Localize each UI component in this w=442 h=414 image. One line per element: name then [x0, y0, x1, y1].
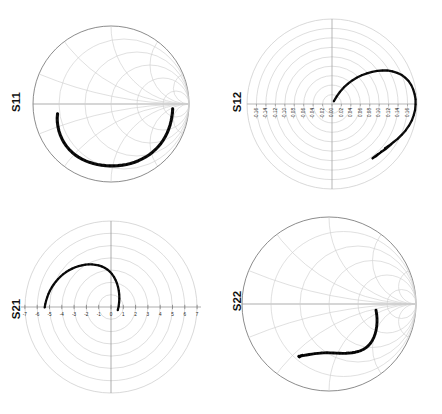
data-point — [78, 265, 80, 267]
data-point — [333, 100, 335, 102]
data-point — [413, 114, 415, 116]
data-point — [388, 145, 390, 147]
data-point — [44, 303, 46, 305]
data-point — [56, 117, 58, 119]
data-point — [162, 139, 164, 141]
data-point — [323, 352, 325, 354]
tick-label: 4 — [159, 312, 162, 317]
data-point — [119, 298, 121, 300]
data-point — [336, 96, 338, 98]
tick-label: 7 — [196, 312, 199, 317]
data-point — [351, 352, 353, 354]
data-point — [170, 120, 172, 122]
data-point — [118, 290, 120, 292]
data-point — [360, 350, 362, 352]
data-point — [314, 353, 316, 355]
data-point — [401, 134, 403, 136]
data-point — [63, 142, 65, 144]
polar-chart-s12: -0.16-0.14-0.12-0.10-0.08-0.06-0.04-0.02… — [221, 0, 442, 207]
data-point — [166, 132, 168, 134]
data-point — [373, 336, 375, 338]
data-point — [375, 309, 377, 311]
data-point — [113, 276, 115, 278]
data-point — [141, 158, 143, 160]
data-point — [375, 329, 377, 331]
data-point — [59, 134, 61, 136]
data-point — [408, 80, 410, 82]
data-point — [375, 156, 377, 158]
data-point — [148, 154, 150, 156]
data-point — [347, 83, 349, 85]
data-point — [71, 151, 73, 153]
data-point — [415, 104, 417, 106]
data-point — [137, 160, 139, 162]
data-point — [157, 145, 159, 147]
data-point — [60, 276, 62, 278]
data-point — [411, 120, 413, 122]
tick-label: -5 — [47, 312, 52, 317]
data-point — [77, 156, 79, 158]
data-point — [379, 152, 381, 154]
data-point — [405, 130, 407, 132]
smith-chart-s11 — [0, 0, 221, 207]
data-point — [384, 148, 386, 150]
data-point — [115, 279, 117, 281]
data-point — [339, 352, 341, 354]
data-point — [348, 352, 350, 354]
data-point — [92, 162, 94, 164]
data-point — [345, 352, 347, 354]
data-point — [401, 74, 403, 76]
tick-label: -0.16 — [254, 108, 259, 119]
tick-label: 1 — [122, 312, 125, 317]
tick-label: 2 — [134, 312, 137, 317]
data-point — [317, 352, 319, 354]
data-point — [111, 273, 113, 275]
x-arc-0p5-neg — [242, 304, 442, 414]
data-point — [84, 264, 86, 266]
tick-label: -0.04 — [310, 108, 315, 119]
trace-s21 — [45, 264, 120, 310]
data-point — [151, 151, 153, 153]
data-point — [342, 352, 344, 354]
data-point — [376, 317, 378, 319]
data-point — [85, 160, 87, 162]
data-point — [361, 74, 363, 76]
data-point — [298, 356, 300, 358]
data-point — [96, 163, 98, 165]
data-point — [380, 151, 382, 153]
polar-grid-s21 — [21, 221, 201, 393]
tick-label: 0.06 — [358, 108, 363, 117]
tick-label: 0.16 — [405, 108, 410, 117]
tick-label: -0.02 — [320, 108, 325, 119]
tick-label: 0 — [110, 312, 113, 317]
data-point — [171, 116, 173, 118]
data-point — [351, 80, 353, 82]
tick-labels-s12: -0.16-0.14-0.12-0.10-0.08-0.06-0.04-0.02… — [254, 108, 410, 119]
data-point — [154, 148, 156, 150]
data-point — [311, 353, 313, 355]
data-point — [88, 264, 90, 266]
data-point — [412, 89, 414, 91]
polar-chart-s21: -7-6-5-4-3-2-101234567 — [0, 207, 221, 414]
tick-label: 6 — [184, 312, 187, 317]
data-point — [387, 146, 389, 148]
markers-s22 — [298, 309, 378, 358]
data-point — [393, 141, 395, 143]
data-point — [376, 70, 378, 72]
data-point — [145, 156, 147, 158]
data-point — [68, 148, 70, 150]
data-point — [68, 269, 70, 271]
data-point — [98, 265, 100, 267]
data-point — [160, 142, 162, 144]
data-point — [371, 71, 373, 73]
tick-label: 0.08 — [367, 108, 372, 117]
tick-label: 0.04 — [348, 108, 353, 117]
data-point — [130, 162, 132, 164]
data-point — [366, 72, 368, 74]
data-point — [116, 282, 118, 284]
data-point — [81, 158, 83, 160]
data-point — [376, 313, 378, 315]
data-point — [134, 161, 136, 163]
data-point — [397, 138, 399, 140]
data-point — [308, 354, 310, 356]
